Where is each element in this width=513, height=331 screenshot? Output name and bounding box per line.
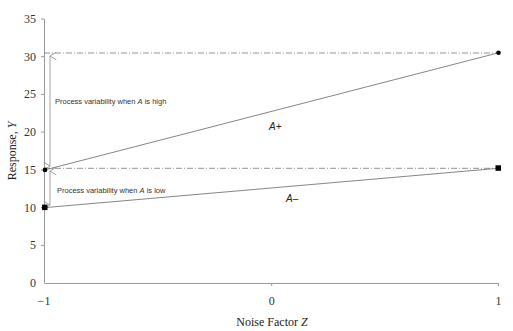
y-axis-label: Response, Y xyxy=(5,120,19,180)
svg-text:20: 20 xyxy=(24,125,36,139)
svg-text:30: 30 xyxy=(24,50,36,64)
chart: 35 30 25 20 15 10 5 0 −1 0 1 Noise Facto… xyxy=(0,0,513,331)
series-a-plus-line xyxy=(45,53,499,170)
series-label-a-plus: A+ xyxy=(268,121,282,132)
svg-text:15: 15 xyxy=(24,163,36,177)
y-ticks: 35 30 25 20 15 10 5 0 xyxy=(24,12,44,290)
svg-text:5: 5 xyxy=(30,238,36,252)
svg-text:25: 25 xyxy=(24,87,36,101)
annotation-low: Process variability when A is low xyxy=(57,186,166,195)
series-label-a-minus: A– xyxy=(285,193,299,204)
svg-text:0: 0 xyxy=(269,294,275,308)
svg-text:−1: −1 xyxy=(38,294,51,308)
x-ticks: −1 0 1 xyxy=(38,283,502,308)
point-a-plus-low xyxy=(43,168,48,173)
point-a-minus-high xyxy=(496,165,502,171)
svg-text:10: 10 xyxy=(24,201,36,215)
svg-text:1: 1 xyxy=(496,294,502,308)
svg-text:0: 0 xyxy=(30,276,36,290)
svg-text:35: 35 xyxy=(24,12,36,26)
point-a-minus-low xyxy=(42,205,48,211)
annotation-high: Process variability when A is high xyxy=(55,97,166,106)
point-a-plus-high xyxy=(496,51,501,56)
x-axis-label: Noise Factor Z xyxy=(236,315,308,329)
